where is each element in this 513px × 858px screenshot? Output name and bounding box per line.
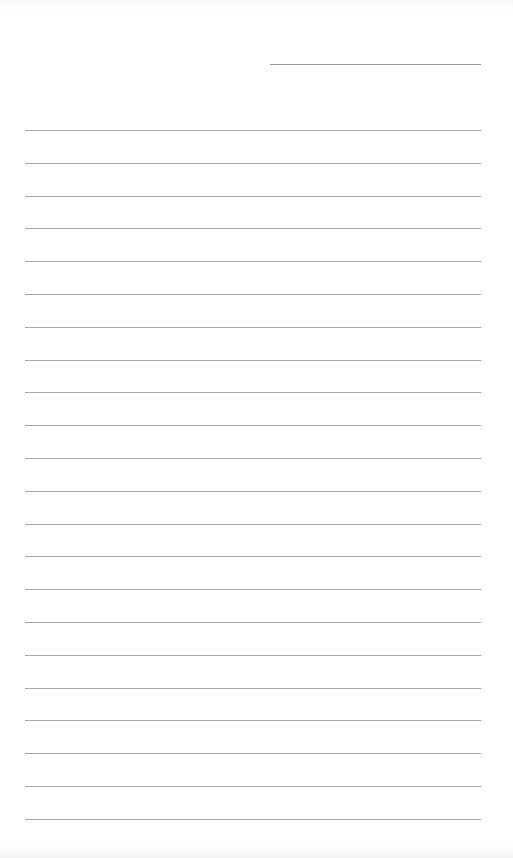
- ruled-line: [25, 130, 481, 131]
- ruled-line: [25, 163, 481, 164]
- ruled-line: [25, 622, 481, 623]
- ruled-line: [25, 688, 481, 689]
- ruled-line: [25, 392, 481, 393]
- ruled-line: [25, 655, 481, 656]
- ruled-line: [25, 294, 481, 295]
- ruled-line: [25, 589, 481, 590]
- ruled-line: [25, 819, 481, 820]
- ruled-line: [25, 327, 481, 328]
- ruled-line: [25, 720, 481, 721]
- lined-paper-page: [0, 0, 513, 858]
- ruled-line: [25, 196, 481, 197]
- ruled-line: [25, 753, 481, 754]
- ruled-line: [25, 491, 481, 492]
- ruled-line: [25, 228, 481, 229]
- ruled-line: [25, 360, 481, 361]
- ruled-line: [25, 425, 481, 426]
- ruled-line: [25, 556, 481, 557]
- ruled-line: [25, 524, 481, 525]
- ruled-line: [25, 786, 481, 787]
- ruled-line: [25, 458, 481, 459]
- date-line: [270, 64, 481, 65]
- ruled-line: [25, 261, 481, 262]
